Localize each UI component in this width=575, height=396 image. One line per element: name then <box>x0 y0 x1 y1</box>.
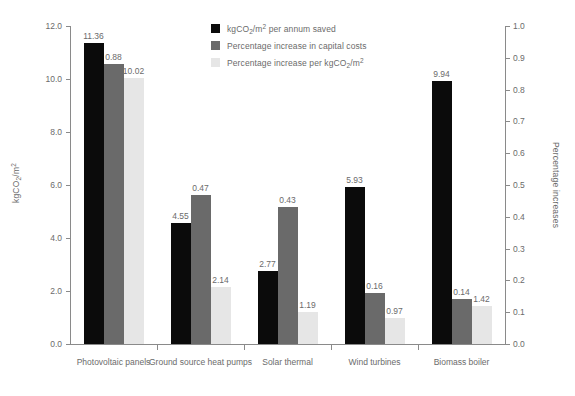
y-tick-right <box>506 312 510 313</box>
y-tick-right <box>506 249 510 250</box>
y-tick-label-right: 0.9 <box>513 53 553 63</box>
y-tick-right <box>506 217 510 218</box>
y-tick-right <box>506 26 510 27</box>
y-tick-label-right: 0.1 <box>513 307 553 317</box>
bar-value-label: 11.36 <box>78 32 110 41</box>
y-tick-label-left: 12.0 <box>20 21 62 31</box>
legend-item: Percentage increase in capital costs <box>211 38 367 53</box>
x-axis-category-label: Biomass boiler <box>402 357 522 368</box>
bar <box>258 271 278 344</box>
bar <box>385 318 405 344</box>
bar-value-label: 0.88 <box>98 53 130 62</box>
y-tick-label-left: 0.0 <box>20 339 62 349</box>
legend-item: kgCO2/m2 per annum saved <box>211 21 367 36</box>
bar <box>365 293 385 344</box>
y-tick-label-right: 0.0 <box>513 339 553 349</box>
bar <box>124 78 144 344</box>
y-tick-label-right: 0.3 <box>513 244 553 254</box>
y-tick-label-right: 0.4 <box>513 212 553 222</box>
plot-area: 11.360.8810.024.550.472.142.770.431.195.… <box>70 26 505 344</box>
y-tick-label-left: 10.0 <box>20 74 62 84</box>
y-tick-right <box>506 153 510 154</box>
bar <box>84 43 104 344</box>
bar <box>472 306 492 344</box>
bar-value-label: 9.94 <box>426 70 458 79</box>
legend-label: Percentage increase per kgCO2/m2 <box>227 58 364 68</box>
bar-value-label: 5.93 <box>339 176 371 185</box>
y-tick-label-right: 0.6 <box>513 148 553 158</box>
bar-chart: kgCO2/m2 Percentage increases 0.02.04.06… <box>0 0 575 396</box>
y-tick-label-left: 8.0 <box>20 127 62 137</box>
y-tick-right <box>506 90 510 91</box>
bar-value-label: 0.47 <box>185 184 217 193</box>
x-axis-line <box>70 344 506 345</box>
y-tick-right <box>506 344 510 345</box>
y-tick-label-right: 1.0 <box>513 21 553 31</box>
bar-value-label: 1.19 <box>292 301 324 310</box>
y-tick-label-left: 6.0 <box>20 180 62 190</box>
bar-value-label: 0.43 <box>272 196 304 205</box>
legend-swatch <box>211 58 220 67</box>
y-tick-left <box>66 344 70 345</box>
bar <box>278 207 298 344</box>
bar-value-label: 2.14 <box>205 276 237 285</box>
bar <box>191 195 211 344</box>
y-tick-label-left: 2.0 <box>20 286 62 296</box>
legend-label: Percentage increase in capital costs <box>227 41 367 51</box>
bar-value-label: 10.02 <box>118 67 150 76</box>
y-tick-right <box>506 280 510 281</box>
legend-label: kgCO2/m2 per annum saved <box>227 24 336 34</box>
bar-value-label: 1.42 <box>466 295 498 304</box>
bar <box>171 223 191 344</box>
legend: kgCO2/m2 per annum savedPercentage incre… <box>211 21 367 72</box>
y-tick-label-right: 0.5 <box>513 180 553 190</box>
bar <box>298 312 318 344</box>
bar-value-label: 0.97 <box>379 307 411 316</box>
y-tick-label-left: 4.0 <box>20 233 62 243</box>
y-tick-label-right: 0.8 <box>513 85 553 95</box>
y-tick-right <box>506 185 510 186</box>
x-axis-tick <box>244 345 245 350</box>
legend-swatch <box>211 41 220 50</box>
legend-swatch <box>211 24 220 33</box>
y-tick-right <box>506 58 510 59</box>
bar <box>104 64 124 344</box>
y-tick-label-right: 0.7 <box>513 116 553 126</box>
y-tick-label-right: 0.2 <box>513 275 553 285</box>
y-tick-right <box>506 121 510 122</box>
bar-value-label: 0.16 <box>359 282 391 291</box>
x-axis-tick <box>157 345 158 350</box>
x-axis-tick <box>418 345 419 350</box>
bar <box>211 287 231 344</box>
bar <box>345 187 365 344</box>
x-axis-tick <box>331 345 332 350</box>
bar <box>452 299 472 344</box>
legend-item: Percentage increase per kgCO2/m2 <box>211 55 367 70</box>
bar <box>432 81 452 344</box>
